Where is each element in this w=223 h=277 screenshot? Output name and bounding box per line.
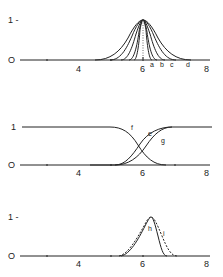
x-tick-8: 8	[204, 259, 209, 269]
curve-label-g: g	[161, 137, 165, 145]
curve-label-h: h	[148, 225, 152, 232]
x-tick-4: 4	[76, 259, 81, 269]
y1-label: 1 -	[8, 212, 19, 222]
curve-label-a: a	[150, 61, 154, 68]
curve-label-e: e	[148, 130, 152, 137]
curve-label-f: f	[131, 124, 133, 131]
curve-label-b: b	[160, 61, 164, 68]
curve-label-i: i	[163, 230, 165, 237]
x-tick-6: 6	[140, 259, 145, 269]
y0-label: O	[8, 160, 15, 170]
y0-label: O	[8, 251, 15, 261]
x-tick-6: 6	[140, 168, 145, 178]
curve-f	[22, 127, 166, 165]
x-tick-6: 6	[140, 64, 145, 74]
x-tick-8: 8	[204, 168, 209, 178]
panel-3: 1 - O 4 6 8 h i	[8, 212, 210, 269]
x-tick-4: 4	[76, 64, 81, 74]
curve-label-d: d	[186, 61, 190, 68]
y1-label: 1 -	[8, 15, 19, 25]
curve-g	[115, 127, 172, 165]
figure: 1 - O 4 6 8 a b c d 1 O 4 6 8	[0, 0, 223, 277]
panel-1: 1 - O 4 6 8 a b c d	[8, 15, 210, 74]
x-tick-8: 8	[204, 64, 209, 74]
curve-i	[119, 217, 177, 256]
x-tick-4: 4	[76, 168, 81, 178]
y0-label: O	[8, 55, 15, 65]
curve-label-c: c	[170, 61, 174, 68]
panel-2: 1 O 4 6 8 f e g	[8, 122, 212, 178]
y1-label: 1	[11, 122, 16, 132]
